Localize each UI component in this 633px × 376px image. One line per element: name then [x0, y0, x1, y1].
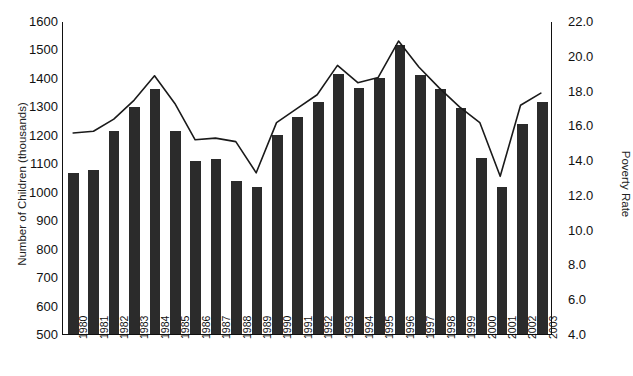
x-tick-1998: 1998 — [445, 316, 457, 339]
y-right-tick: 14.0 — [568, 154, 612, 167]
y-right-tick: 6.0 — [568, 293, 612, 306]
x-tick-2001: 2001 — [506, 316, 518, 339]
y-right-tick: 4.0 — [568, 328, 612, 341]
y-axis-right-ticks: 22.020.018.016.014.012.010.08.06.04.0 — [568, 0, 616, 376]
x-tick-2002: 2002 — [526, 316, 538, 339]
plot-area — [62, 22, 552, 335]
y-right-tick: 12.0 — [568, 189, 612, 202]
y-left-tick: 1300 — [18, 100, 58, 113]
x-axis-labels: 1980198119821983198419851986198719881989… — [62, 337, 552, 376]
y-left-tick: 1200 — [18, 129, 58, 142]
x-tick-2003: 2003 — [547, 316, 559, 339]
y-right-tick: 22.0 — [568, 15, 612, 28]
x-tick-1990: 1990 — [281, 316, 293, 339]
y-left-tick: 1100 — [18, 157, 58, 170]
y-right-tick: 8.0 — [568, 258, 612, 271]
y-axis-left-ticks: 1600150014001300120011001000900800700600… — [18, 0, 58, 376]
x-tick-1982: 1982 — [118, 316, 130, 339]
x-tick-2000: 2000 — [486, 316, 498, 339]
y-left-tick: 1600 — [18, 15, 58, 28]
y-left-tick: 1500 — [18, 43, 58, 56]
x-tick-1996: 1996 — [404, 316, 416, 339]
x-tick-1988: 1988 — [241, 316, 253, 339]
x-tick-1980: 1980 — [77, 316, 89, 339]
y-left-tick: 500 — [18, 328, 58, 341]
y-right-tick: 20.0 — [568, 50, 612, 63]
x-tick-1992: 1992 — [322, 316, 334, 339]
plot-inner — [63, 22, 551, 334]
poverty-rate-line-layer — [63, 22, 551, 334]
x-tick-1997: 1997 — [424, 316, 436, 339]
x-tick-1993: 1993 — [343, 316, 355, 339]
y-left-tick: 700 — [18, 271, 58, 284]
x-tick-1994: 1994 — [363, 316, 375, 339]
x-tick-1999: 1999 — [465, 316, 477, 339]
y-left-tick: 600 — [18, 300, 58, 313]
x-tick-1981: 1981 — [98, 316, 110, 339]
poverty-rate-line — [73, 41, 541, 176]
y-right-tick: 18.0 — [568, 85, 612, 98]
y-right-tick: 10.0 — [568, 224, 612, 237]
y-left-tick: 800 — [18, 243, 58, 256]
y-left-tick: 1400 — [18, 72, 58, 85]
x-tick-1989: 1989 — [261, 316, 273, 339]
x-tick-1983: 1983 — [138, 316, 150, 339]
y-right-tick: 16.0 — [568, 119, 612, 132]
x-tick-1985: 1985 — [179, 316, 191, 339]
x-tick-1986: 1986 — [200, 316, 212, 339]
x-tick-1987: 1987 — [220, 316, 232, 339]
poverty-children-chart: Number of Children (thousands) Poverty R… — [0, 0, 633, 376]
y-left-tick: 900 — [18, 214, 58, 227]
x-tick-1991: 1991 — [302, 316, 314, 339]
x-tick-1984: 1984 — [159, 316, 171, 339]
y-axis-right-title: Poverty Rate — [620, 94, 632, 274]
y-left-tick: 1000 — [18, 186, 58, 199]
x-tick-1995: 1995 — [383, 316, 395, 339]
